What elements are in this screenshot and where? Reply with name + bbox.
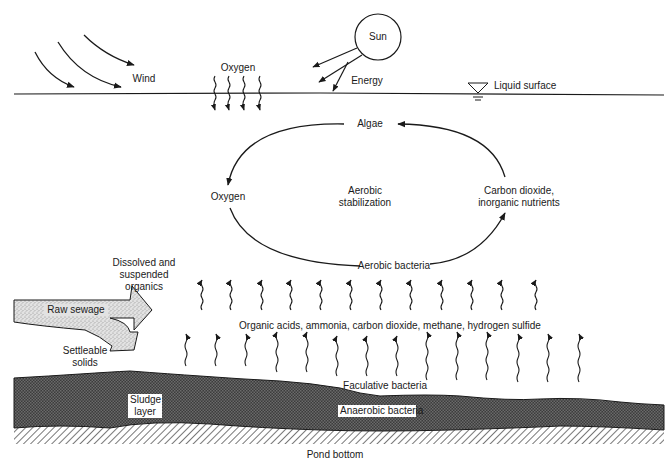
facultative-bacteria-label: Faculative bacteria: [340, 380, 430, 392]
sludge-line-2: layer: [130, 406, 160, 418]
dissolved-line-1: Dissolved and: [104, 257, 184, 269]
liquid-surface-symbol: [468, 83, 488, 100]
gas-arrows-lower: [185, 332, 580, 382]
energy-label: Energy: [347, 75, 387, 87]
liquid-surface-label: Liquid surface: [494, 80, 556, 92]
gas-arrows-upper: [201, 280, 537, 310]
pond-bottom-label: Pond bottom: [300, 449, 370, 461]
pond-diagram: [0, 0, 666, 464]
dissolved-organics-label: Dissolved and suspended organics: [104, 257, 184, 293]
raw-sewage-arrow: [14, 286, 152, 351]
aerobic-bacteria-label: Aerobic bacteria: [352, 260, 436, 272]
oxygen-cycle-label: Oxygen: [206, 191, 250, 203]
gases-label: Organic acids, ammonia, carbon dioxide, …: [230, 320, 550, 332]
sludge-layer-label: Sludge layer: [128, 394, 162, 418]
sun-label: Sun: [366, 31, 390, 43]
anaerobic-bacteria-label: Anaerobic bacteria: [338, 405, 416, 417]
nutrients-line: inorganic nutrients: [464, 197, 574, 209]
aerobic-line: Aerobic: [330, 185, 400, 197]
dissolved-line-3: organics: [104, 281, 184, 293]
aerobic-stabilization-label: Aerobic stabilization: [330, 185, 400, 209]
settleable-solids-label: Settleable solids: [60, 345, 110, 369]
liquid-surface-line: [14, 93, 664, 95]
stabilization-line: stabilization: [330, 197, 400, 209]
wind-label: Wind: [128, 73, 160, 85]
raw-sewage-label: Raw sewage: [44, 304, 108, 316]
sludge-line-1: Sludge: [130, 394, 160, 406]
co2-nutrients-label: Carbon dioxide, inorganic nutrients: [464, 185, 574, 209]
algae-label: Algae: [348, 118, 392, 130]
settleable-line-2: solids: [60, 357, 110, 369]
oxygen-top-label: Oxygen: [218, 62, 258, 74]
co2-line: Carbon dioxide,: [464, 185, 574, 197]
settleable-line-1: Settleable: [60, 345, 110, 357]
sludge-layer: [14, 371, 664, 431]
wind-arrows: [35, 35, 134, 87]
dissolved-line-2: suspended: [104, 269, 184, 281]
